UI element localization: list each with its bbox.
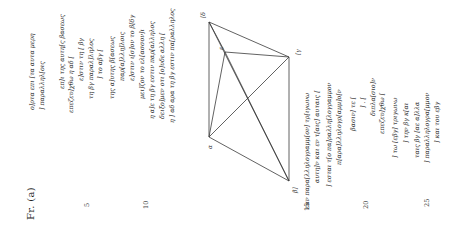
document-view: Fr. (a) ο]ρτα επι [τα αυτα μερη ] παραλλ… [0, 0, 475, 231]
vertex-label-gamma: [γ [294, 49, 302, 55]
vertex-label-epsilon: ε [217, 47, 224, 50]
geometric-diagram: [δ ε [γ α β] [0, 0, 475, 231]
vertex-label-alpha: α [206, 145, 213, 149]
papyrus-page: Fr. (a) ο]ρτα επι [τα αυτα μερη ] παραλλ… [0, 0, 475, 231]
vertex-label-delta: [δ [199, 12, 206, 18]
vertex-label-beta: β] [291, 187, 299, 194]
